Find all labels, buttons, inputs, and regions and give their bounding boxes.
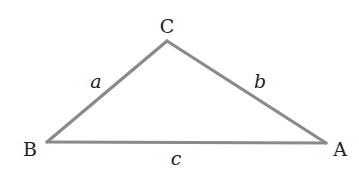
triangle-diagram: C B A a b c (0, 0, 359, 175)
side-b-label: b (254, 70, 266, 92)
side-b-edge (167, 41, 326, 143)
vertex-c-label: C (160, 15, 175, 37)
vertex-b-label: B (23, 138, 37, 160)
side-c-label: c (171, 147, 182, 169)
triangle-edges (47, 41, 326, 143)
side-c-edge (47, 142, 326, 143)
vertex-a-label: A (332, 138, 347, 160)
side-a-edge (47, 41, 167, 142)
side-a-label: a (90, 70, 101, 92)
